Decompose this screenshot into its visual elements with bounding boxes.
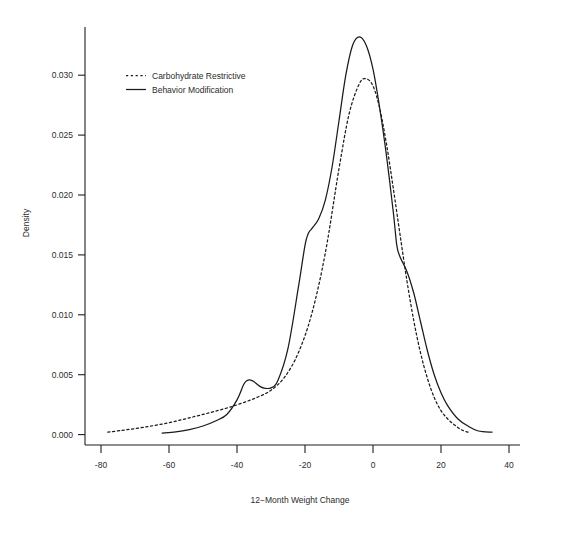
y-ticklabel: 0.000: [52, 430, 74, 440]
y-ticklabel: 0.025: [52, 130, 74, 140]
y-ticklabel: 0.010: [52, 310, 74, 320]
x-ticklabel: -80: [95, 460, 108, 470]
legend-label-carbohydrate-restrictive: Carbohydrate Restrictive: [152, 71, 246, 81]
x-ticklabel: -60: [163, 460, 176, 470]
figure-background: [0, 0, 573, 539]
y-ticklabel: 0.015: [52, 250, 74, 260]
legend-label-behavior-modification: Behavior Modification: [152, 85, 234, 95]
x-ticklabel: -40: [231, 460, 244, 470]
x-ticklabel: -20: [299, 460, 312, 470]
y-ticklabel: 0.005: [52, 370, 74, 380]
y-axis-title: Density: [21, 208, 31, 237]
density-plot-figure: 0.000 0.005 0.010 0.015 0.020 0.025 0.03…: [0, 0, 573, 539]
y-ticklabel: 0.020: [52, 190, 74, 200]
x-ticklabel: 0: [371, 460, 376, 470]
x-axis-title: 12−Month Weight Change: [251, 495, 350, 505]
x-ticklabel: 40: [504, 460, 514, 470]
x-ticklabel: 20: [436, 460, 446, 470]
y-ticklabel: 0.030: [52, 70, 74, 80]
